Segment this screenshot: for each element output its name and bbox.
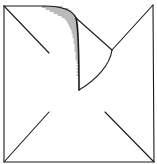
diagonal-bottom-left (4, 112, 49, 162)
square-fold-drawing (0, 0, 157, 164)
diagonal-top-right (112, 5, 153, 50)
fold-flap (44, 6, 112, 90)
diagonal-top-left (4, 6, 49, 53)
diagram-canvas: Square with corner fold (0, 0, 157, 164)
diagonal-bottom-right (105, 112, 154, 162)
fold-hatching (42, 7, 78, 75)
